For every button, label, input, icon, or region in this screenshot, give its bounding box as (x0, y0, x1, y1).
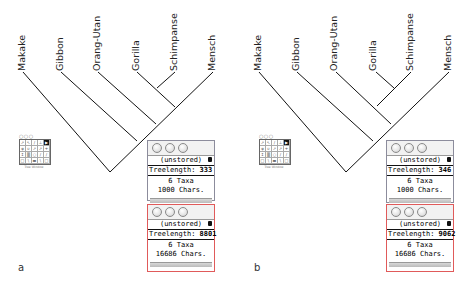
close-button-icon[interactable] (152, 207, 162, 217)
lock-icon[interactable] (208, 157, 212, 162)
leaf-label: Schimpanse (404, 13, 415, 71)
treelength-value: 8801 (200, 230, 217, 238)
scrollbar[interactable] (150, 262, 212, 267)
chars-count: 1000 Chars. (148, 186, 214, 195)
leaf-label: Gorilla (367, 40, 378, 71)
status-row: (unstored) (387, 155, 453, 165)
taxa-count: 6 Taxa (387, 177, 453, 186)
close-button-icon[interactable] (152, 143, 162, 153)
treelength-row: Treelength: 346 (387, 165, 453, 176)
chars-count: 16686 Chars. (148, 250, 214, 259)
close-button-icon[interactable] (391, 143, 401, 153)
leaf-label: Mensch (442, 35, 453, 71)
tool-e-icon[interactable]: □ (44, 158, 50, 164)
chars-count: 16686 Chars. (387, 250, 453, 259)
panel-letter: b (254, 262, 260, 273)
taxa-count: 6 Taxa (148, 241, 214, 250)
scrollbar[interactable] (150, 198, 212, 203)
treelength-label: Treelength: (149, 230, 195, 238)
tree-info-window-top: (unstored) Treelength: 346 6 Taxa 1000 C… (386, 140, 454, 203)
palette-caption: Tree Window (259, 165, 289, 169)
status-row: (unstored) (148, 155, 214, 165)
treelength-value: 346 (439, 166, 452, 174)
status-text: (unstored) (160, 220, 202, 228)
minimize-button-icon[interactable] (404, 143, 414, 153)
leaf-label: Orang-Utan (91, 16, 102, 71)
leaf-label: Gibbon (54, 37, 65, 71)
zoom-button-icon[interactable] (178, 207, 188, 217)
scrollbar[interactable] (389, 198, 451, 203)
treelength-label: Treelength: (149, 166, 195, 174)
status-text: (unstored) (160, 156, 202, 164)
scrollbar[interactable] (389, 262, 451, 267)
tree-info-window-bottom: (unstored) Treelength: 9062 6 Taxa 16686… (386, 204, 454, 272)
palette-caption: Tree Window (19, 165, 49, 169)
leaf-label: Mensch (206, 35, 217, 71)
treelength-row: Treelength: 333 (148, 165, 214, 176)
lock-icon[interactable] (447, 221, 451, 226)
panel-a: Makake Gibbon Orang-Utan Gorilla Schimpa… (0, 0, 234, 286)
lock-icon[interactable] (208, 221, 212, 226)
tree-info-window-top: (unstored) Treelength: 333 6 Taxa 1000 C… (147, 140, 215, 201)
tool-palette: ○○○ ↗ ↖ / ⊥ ▶ φ υ ↗ ↗ + ↕ ▒ ○ / / □ \ ▬ … (19, 133, 53, 169)
chars-count: 1000 Chars. (387, 186, 453, 195)
taxa-count: 6 Taxa (148, 177, 214, 186)
minimize-button-icon[interactable] (165, 207, 175, 217)
leaf-label: Makake (252, 35, 263, 71)
tool-palette: ○○○ ↗ ↖ / ⊥ ▶ φ υ ↗ ↗ + ↕ ▒ ○ / / □ \ ▬ … (259, 133, 293, 169)
window-titlebar[interactable] (387, 141, 453, 155)
panel-letter: a (18, 262, 24, 273)
leaf-label: Schimpanse (168, 13, 179, 71)
zoom-button-icon[interactable] (417, 207, 427, 217)
tree-info-window-bottom: (unstored) Treelength: 8801 6 Taxa 16686… (147, 204, 215, 272)
treelength-value: 9062 (439, 230, 456, 238)
treelength-row: Treelength: 9062 (387, 229, 453, 240)
status-text: (unstored) (399, 156, 441, 164)
minimize-button-icon[interactable] (404, 207, 414, 217)
zoom-button-icon[interactable] (178, 143, 188, 153)
status-text: (unstored) (399, 220, 441, 228)
panel-b: Makake Gibbon Orang-Utan Gorilla Schimpa… (236, 0, 469, 286)
treelength-label: Treelength: (388, 166, 434, 174)
leaf-label: Orang-Utan (328, 16, 339, 71)
treelength-value: 333 (200, 166, 213, 174)
taxa-count: 6 Taxa (387, 241, 453, 250)
leaf-label: Makake (16, 35, 27, 71)
window-titlebar[interactable] (148, 141, 214, 155)
leaf-label: Gibbon (290, 37, 301, 71)
treelength-label: Treelength: (388, 230, 434, 238)
status-row: (unstored) (387, 219, 453, 229)
minimize-button-icon[interactable] (165, 143, 175, 153)
zoom-button-icon[interactable] (417, 143, 427, 153)
lock-icon[interactable] (447, 157, 451, 162)
treelength-row: Treelength: 8801 (148, 229, 214, 240)
window-titlebar[interactable] (148, 205, 214, 219)
close-button-icon[interactable] (391, 207, 401, 217)
tool-e-icon[interactable]: □ (284, 158, 290, 164)
status-row: (unstored) (148, 219, 214, 229)
window-titlebar[interactable] (387, 205, 453, 219)
leaf-label: Gorilla (130, 40, 141, 71)
